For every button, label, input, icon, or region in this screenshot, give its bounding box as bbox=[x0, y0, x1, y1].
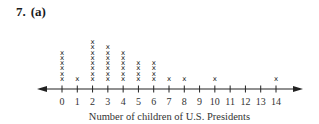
x-mark-icon: x bbox=[134, 60, 142, 67]
tick-label: 1 bbox=[75, 96, 80, 107]
x-mark-icon: x bbox=[73, 76, 81, 83]
x-mark-icon: x bbox=[165, 76, 173, 83]
tick-label: 4 bbox=[121, 96, 126, 107]
tick-label: 12 bbox=[240, 96, 250, 107]
x-mark-icon: x bbox=[180, 76, 188, 83]
x-mark-icon: x bbox=[104, 44, 112, 51]
tick-label: 13 bbox=[256, 96, 266, 107]
tick-label: 11 bbox=[225, 96, 235, 107]
x-mark-icon: x bbox=[58, 49, 66, 56]
tick-label: 8 bbox=[182, 96, 187, 107]
tick-label: 7 bbox=[167, 96, 172, 107]
x-mark-icon: x bbox=[272, 76, 280, 83]
tick-label: 0 bbox=[60, 96, 65, 107]
x-mark-icon: x bbox=[211, 76, 219, 83]
left-arrow-icon bbox=[37, 86, 47, 92]
tick-label: 9 bbox=[197, 96, 202, 107]
tick-label: 3 bbox=[105, 96, 110, 107]
x-mark-icon: x bbox=[89, 38, 97, 45]
x-axis-label: Number of children of U.S. Presidents bbox=[0, 111, 319, 122]
right-arrow-icon bbox=[293, 86, 303, 92]
tick-label: 10 bbox=[210, 96, 220, 107]
tick-label: 5 bbox=[136, 96, 141, 107]
x-mark-icon: x bbox=[119, 49, 127, 56]
dot-plot: 7.(a) xxxxxxxxxxxxxxxxxxxxxxxxxxxxxxxxxx… bbox=[0, 0, 319, 124]
x-mark-icon: x bbox=[150, 60, 158, 67]
tick-label: 14 bbox=[271, 96, 281, 107]
tick-label: 2 bbox=[90, 96, 95, 107]
tick-label: 6 bbox=[151, 96, 156, 107]
